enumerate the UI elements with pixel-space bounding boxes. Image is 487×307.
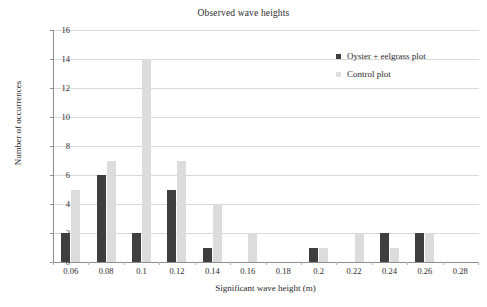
chart-title: Observed wave heights xyxy=(0,8,487,18)
x-axis-label: Significant wave height (m) xyxy=(53,283,478,293)
legend-swatch-icon xyxy=(336,72,341,77)
x-tick-label: 0.2 xyxy=(299,266,339,276)
legend-item: Oyster + eelgrass plot xyxy=(336,47,426,65)
bar xyxy=(203,248,212,263)
x-tick-label: 0.12 xyxy=(157,266,197,276)
bar xyxy=(355,233,364,262)
x-tick-label: 0.22 xyxy=(334,266,374,276)
x-tick-label: 0.28 xyxy=(440,266,480,276)
x-tick-mark xyxy=(195,262,196,265)
x-tick-mark xyxy=(88,262,89,265)
chart-container: Observed wave heights 0246810121416 Numb… xyxy=(0,0,487,307)
x-tick-mark xyxy=(478,262,479,265)
legend-label: Oyster + eelgrass plot xyxy=(347,51,426,61)
x-tick-label: 0.14 xyxy=(192,266,232,276)
bar xyxy=(415,233,424,262)
x-tick-mark xyxy=(336,262,337,265)
x-tick-mark xyxy=(443,262,444,265)
legend-item: Control plot xyxy=(336,65,426,83)
bar xyxy=(390,248,399,263)
x-tick-label: 0.06 xyxy=(51,266,91,276)
x-tick-label: 0.26 xyxy=(405,266,445,276)
bar xyxy=(309,248,318,263)
bar xyxy=(380,233,389,262)
x-tick-label: 0.08 xyxy=(86,266,126,276)
x-tick-label: 0.24 xyxy=(369,266,409,276)
x-tick-mark xyxy=(159,262,160,265)
legend-swatch-icon xyxy=(336,54,341,59)
bar xyxy=(132,233,141,262)
bar xyxy=(71,190,80,263)
bar xyxy=(177,161,186,263)
bar xyxy=(107,161,116,263)
bar xyxy=(248,233,257,262)
x-tick-mark xyxy=(124,262,125,265)
bar xyxy=(213,204,222,262)
bar xyxy=(97,175,106,262)
bar xyxy=(142,59,151,262)
chart-legend: Oyster + eelgrass plotControl plot xyxy=(336,47,426,83)
x-tick-label: 0.16 xyxy=(228,266,268,276)
x-tick-label: 0.18 xyxy=(263,266,303,276)
x-tick-label: 0.1 xyxy=(122,266,162,276)
x-tick-mark xyxy=(301,262,302,265)
x-tick-mark xyxy=(53,262,54,265)
y-axis-label: Number of occurrences xyxy=(13,43,23,203)
legend-label: Control plot xyxy=(347,69,391,79)
x-tick-mark xyxy=(372,262,373,265)
x-tick-mark xyxy=(407,262,408,265)
x-tick-mark xyxy=(266,262,267,265)
bar xyxy=(167,190,176,263)
bar xyxy=(425,233,434,262)
bar xyxy=(61,233,70,262)
x-tick-mark xyxy=(230,262,231,265)
bar xyxy=(319,248,328,263)
